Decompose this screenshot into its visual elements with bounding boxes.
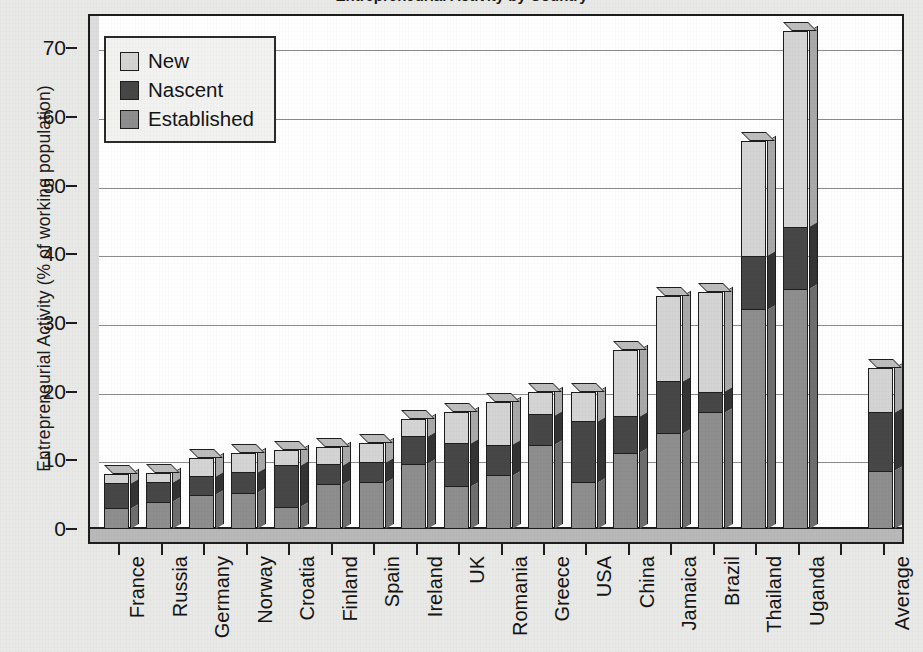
bar-side-segment-established	[258, 488, 265, 528]
x-label-finland: Finland	[339, 556, 362, 622]
x-label-spain: Spain	[381, 556, 404, 607]
bar-segment-nascent	[444, 443, 469, 486]
bar-greece[interactable]	[528, 383, 553, 529]
legend-item-established[interactable]: Established	[120, 105, 274, 134]
y-tick-mark	[66, 116, 77, 118]
bar-side-segment-nascent	[555, 411, 562, 445]
y-tick-label: 50	[20, 174, 66, 198]
plot-floor	[88, 527, 904, 544]
y-tick-label: 20	[20, 380, 66, 404]
bar-side-segment-established	[471, 482, 478, 528]
bar-segment-new	[359, 443, 384, 462]
y-tick-label: 0	[20, 517, 66, 541]
x-tick-mark	[416, 544, 418, 555]
bar-side-segment-established	[216, 491, 223, 529]
legend-label: Nascent	[148, 80, 223, 101]
bar-finland[interactable]	[316, 438, 341, 529]
x-label-china: China	[636, 556, 659, 608]
bar-side-segment-new	[725, 288, 732, 391]
legend-item-new[interactable]: New	[120, 47, 274, 76]
x-axis-labels: FranceRussiaGermanyNorwayCroatiaFinlandS…	[88, 556, 904, 652]
bar-segment-established	[868, 471, 893, 529]
x-label-uganda: Uganda	[806, 556, 829, 626]
bar-side-segment-nascent	[301, 461, 308, 506]
chart-title-clipped: Entrepreneurial Activity by Country	[0, 0, 923, 13]
bar-segment-nascent	[528, 414, 553, 444]
bar-side-segment-nascent	[598, 417, 605, 482]
bar-front-face	[868, 368, 893, 529]
bar-side-face	[215, 453, 224, 529]
bar-side-segment-nascent	[513, 441, 520, 476]
y-tick-mark	[66, 391, 77, 393]
bar-norway[interactable]	[231, 444, 256, 529]
x-tick-mark	[755, 544, 757, 555]
bar-romania[interactable]	[486, 393, 511, 529]
x-label-jamaica: Jamaica	[678, 556, 701, 630]
bar-china[interactable]	[613, 341, 638, 529]
bar-brazil[interactable]	[698, 283, 723, 529]
y-tick-mark	[66, 322, 77, 324]
bar-segment-new	[486, 402, 511, 445]
bar-side-segment-established	[343, 480, 350, 528]
bar-side-segment-established	[810, 285, 817, 529]
bar-front-face	[741, 141, 766, 529]
bar-segment-new	[783, 31, 808, 227]
x-label-usa: USA	[593, 556, 616, 597]
y-tick-label: 30	[20, 311, 66, 335]
bar-segment-established	[783, 289, 808, 529]
y-axis-ticks: 010203040506070	[0, 14, 88, 544]
bar-uk[interactable]	[444, 403, 469, 529]
x-tick-mark	[840, 544, 842, 555]
legend-swatch-nascent-icon	[120, 81, 139, 100]
bar-side-face	[597, 386, 606, 529]
bar-side-face	[427, 414, 436, 529]
bar-ireland[interactable]	[401, 410, 426, 529]
bar-side-face	[130, 469, 139, 529]
bar-front-face	[486, 402, 511, 529]
bar-side-segment-new	[471, 409, 478, 444]
bar-average[interactable]	[868, 359, 893, 529]
x-tick-mark	[118, 544, 120, 555]
bar-usa[interactable]	[571, 383, 596, 529]
bar-jamaica[interactable]	[656, 287, 681, 529]
legend-item-nascent[interactable]: Nascent	[120, 76, 274, 105]
bar-front-face	[146, 473, 171, 529]
bar-side-segment-new	[598, 388, 605, 421]
bar-croatia[interactable]	[274, 441, 299, 529]
x-label-germany: Germany	[211, 556, 234, 638]
bar-front-face	[189, 458, 214, 529]
bar-spain[interactable]	[359, 434, 384, 529]
y-tick-label: 70	[20, 36, 66, 60]
bar-side-segment-established	[598, 478, 605, 528]
bar-side-face	[257, 448, 266, 529]
bar-thailand[interactable]	[741, 132, 766, 529]
bar-segment-nascent	[401, 436, 426, 463]
bar-segment-nascent	[613, 416, 638, 453]
bar-side-segment-nascent	[895, 408, 902, 470]
bar-segment-nascent	[104, 483, 129, 508]
bar-germany[interactable]	[189, 449, 214, 529]
x-tick-mark	[373, 544, 375, 555]
bar-front-face	[401, 419, 426, 529]
bar-segment-nascent	[571, 421, 596, 483]
bar-side-face	[639, 345, 648, 529]
legend-swatch-established-icon	[120, 110, 139, 129]
bar-segment-nascent	[189, 476, 214, 495]
bar-side-face	[767, 136, 776, 529]
chart-legend: NewNascentEstablished	[104, 36, 276, 143]
bar-segment-nascent	[868, 412, 893, 470]
bar-side-segment-established	[428, 460, 435, 529]
x-label-average: Average	[891, 556, 914, 630]
bar-side-segment-established	[301, 503, 308, 529]
bar-side-segment-nascent	[768, 252, 775, 309]
y-tick-label: 40	[20, 242, 66, 266]
bar-france[interactable]	[104, 465, 129, 529]
bar-segment-nascent	[741, 256, 766, 310]
bar-russia[interactable]	[146, 464, 171, 529]
bar-side-segment-new	[895, 364, 902, 412]
bar-segment-established	[401, 464, 426, 529]
bar-uganda[interactable]	[783, 22, 808, 529]
x-tick-mark	[628, 544, 630, 555]
bar-segment-new	[444, 412, 469, 443]
bar-front-face	[528, 392, 553, 529]
